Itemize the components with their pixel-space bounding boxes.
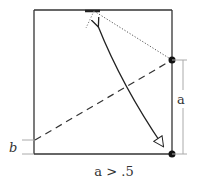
diagram-canvas: a b a > .5	[0, 0, 198, 183]
dimension-a	[172, 60, 187, 154]
square-outline	[34, 10, 172, 154]
curved-double-arrow	[98, 26, 163, 146]
label-b: b	[9, 140, 17, 155]
label-a: a	[177, 92, 185, 107]
caption: a > .5	[94, 164, 133, 179]
dotted-guide	[86, 11, 172, 60]
dimension-b	[22, 140, 34, 154]
